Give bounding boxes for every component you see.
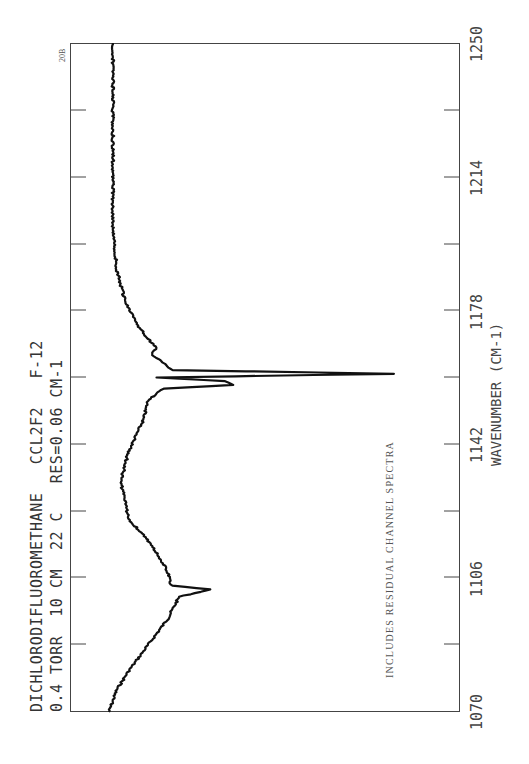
title-line-2: 0.4 TORR 10 CM 22 C RES=0.06 CM-1 (48, 359, 66, 712)
annotation-residual-channel: INCLUDES RESIDUAL CHANNEL SPECTRA (384, 441, 395, 678)
tick-label-1142: 1142 (468, 427, 486, 463)
right-ticks (444, 110, 460, 644)
tick-label-1214: 1214 (468, 160, 486, 196)
tick-label-1070: 1070 (468, 694, 486, 730)
left-ticks (70, 110, 86, 644)
tick-label-1106: 1106 (468, 561, 486, 597)
spectrum-trace (109, 43, 394, 712)
tick-label-1178: 1178 (468, 294, 486, 330)
x-axis-title: WAVENUMBER (CM-1) (488, 323, 504, 466)
title-line-1: DICHLORODIFLUOROMETHANE CCL2F2 F-12 (28, 340, 46, 712)
tick-label-1250: 1250 (468, 26, 486, 62)
spectrum-plot (0, 0, 529, 764)
corner-code: 20B (58, 49, 67, 62)
